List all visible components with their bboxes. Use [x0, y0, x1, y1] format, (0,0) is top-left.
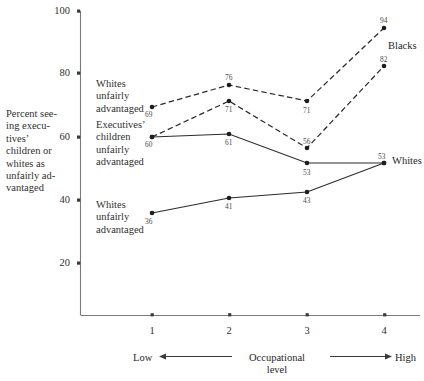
- annotation-line: unfairly: [96, 211, 176, 223]
- x-tick-label-2: 2: [219, 325, 239, 336]
- annotation-line: advantaged: [96, 224, 176, 236]
- y-tick-label-80: 80: [42, 67, 70, 78]
- x-axis-title-line1: Occupational: [249, 352, 305, 363]
- point-label-whites-exec-children-4: 53: [378, 152, 385, 161]
- x-axis-title: Occupational level: [222, 352, 332, 376]
- point-label-whites-exec-children-3: 53: [303, 168, 310, 177]
- annotation-line: Whites: [96, 78, 176, 90]
- annotation-line: unfairly: [96, 90, 176, 102]
- annotation-line: children: [96, 131, 180, 143]
- annotation-line: advantaged: [96, 103, 176, 115]
- point-label-blacks-exec-children-3: 56: [303, 137, 310, 146]
- point-label-whites-whites-unfair-2: 41: [225, 202, 232, 211]
- y-tick-label-20: 20: [42, 257, 70, 268]
- annotation-line: advantaged: [96, 156, 180, 168]
- annotation-line: Whites: [96, 199, 176, 211]
- y-axis-label-line: Percent see-: [6, 108, 78, 120]
- series-points-blacks-exec-children: [150, 64, 387, 151]
- x-tick-label-4: 4: [374, 325, 394, 336]
- x-tick-label-1: 1: [142, 325, 162, 336]
- series-line-whites-whites-unfair: [152, 163, 384, 213]
- point-label-blacks-exec-children-1: 60: [145, 140, 152, 149]
- point-label-blacks-exec-children-4: 82: [380, 55, 387, 64]
- series-label-blacks: Blacks: [388, 40, 417, 51]
- point-label-blacks-whites-unfair-3: 71: [303, 106, 310, 115]
- y-tick-label-100: 100: [42, 5, 70, 16]
- point-label-whites-whites-unfair-3: 43: [303, 196, 310, 205]
- point-label-blacks-exec-children-2: 71: [225, 105, 232, 114]
- series-line-whites-exec-children: [152, 134, 384, 163]
- y-axis-label-line: whites as: [6, 158, 78, 170]
- x-axis-title-line2: level: [267, 364, 287, 375]
- series-label-whites: Whites: [392, 155, 422, 166]
- high-arrow-icon: [330, 354, 392, 360]
- point-label-blacks-whites-unfair-1: 69: [145, 110, 152, 119]
- y-axis-label-line: children or: [6, 145, 78, 157]
- point-label-blacks-whites-unfair-4: 94: [380, 16, 387, 25]
- point-label-blacks-whites-unfair-2: 76: [225, 73, 232, 82]
- x-tick-label-3: 3: [297, 325, 317, 336]
- annotation-line: Executives’: [96, 119, 180, 131]
- y-tick-label-40: 40: [42, 194, 70, 205]
- x-axis-low-label: Low: [133, 352, 152, 363]
- annotation-executives-children-unfairly-advantaged: Executives’ children unfairly advantaged: [96, 119, 180, 168]
- point-label-whites-whites-unfair-1: 36: [145, 217, 152, 226]
- series-points-blacks-whites-unfair: [150, 26, 387, 110]
- series-line-blacks-whites-unfair: [152, 28, 384, 107]
- point-label-whites-exec-children-2: 61: [225, 138, 232, 147]
- y-tick-label-60: 60: [42, 131, 70, 142]
- chart-figure: Percent see- ing execu- tives’ children …: [0, 0, 424, 381]
- annotation-line: unfairly: [96, 144, 180, 156]
- y-axis-label: Percent see- ing execu- tives’ children …: [6, 108, 78, 195]
- y-axis-label-line: unfairly ad-: [6, 170, 78, 182]
- annotation-whites-unfairly-advantaged-top: Whites unfairly advantaged: [96, 78, 176, 115]
- x-axis-high-label: High: [395, 352, 416, 363]
- y-axis-label-line: vantaged: [6, 182, 78, 194]
- annotation-whites-unfairly-advantaged-bottom: Whites unfairly advantaged: [96, 199, 176, 236]
